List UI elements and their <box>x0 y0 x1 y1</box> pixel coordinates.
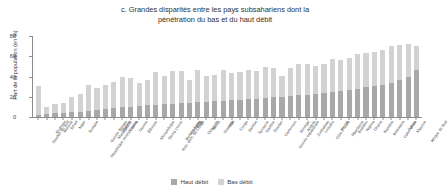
bar-segment-haut-debit <box>305 95 310 117</box>
bar-column <box>93 36 101 117</box>
bar-segment-bas-debit <box>229 73 234 99</box>
x-axis-labels: Soudan du SudÉrythréeBurundiTchadNigerSo… <box>32 120 422 176</box>
stacked-bar <box>120 77 125 118</box>
bar-segment-haut-debit <box>288 96 293 117</box>
bar-segment-bas-debit <box>94 88 99 110</box>
x-axis-label: Somalie <box>88 120 100 134</box>
bar-segment-haut-debit <box>271 97 276 117</box>
bar-column <box>395 36 403 117</box>
bar-segment-bas-debit <box>237 72 242 99</box>
stacked-bar <box>372 52 377 117</box>
bar-segment-haut-debit <box>145 105 150 117</box>
bar-column <box>101 36 109 117</box>
bar-segment-bas-debit <box>61 103 66 113</box>
y-tick-80 <box>29 36 32 37</box>
stacked-bar <box>94 88 99 117</box>
bar-segment-haut-debit <box>94 110 99 117</box>
stacked-bar <box>414 46 419 117</box>
bar-column <box>379 36 387 117</box>
bar-column <box>353 36 361 117</box>
stacked-bar <box>389 46 394 117</box>
stacked-bar <box>279 76 284 118</box>
bar-column <box>76 36 84 117</box>
stacked-bar <box>204 76 209 118</box>
y-tick-label-40: 40 <box>2 74 16 80</box>
bar-segment-haut-debit <box>372 86 377 117</box>
stacked-bar <box>347 58 352 117</box>
bar-column <box>295 36 303 117</box>
bar-segment-haut-debit <box>296 95 301 117</box>
bar-segment-bas-debit <box>69 97 74 112</box>
bar-segment-haut-debit <box>330 92 335 117</box>
bar-segment-haut-debit <box>195 102 200 117</box>
bar-segment-bas-debit <box>254 71 259 98</box>
bar-segment-bas-debit <box>330 59 335 91</box>
bar-segment-haut-debit <box>347 90 352 117</box>
stacked-bar <box>246 70 251 117</box>
bar-segment-haut-debit <box>338 91 343 117</box>
y-tick-60 <box>29 56 32 57</box>
bar-segment-haut-debit <box>229 100 234 117</box>
bar-column <box>286 36 294 117</box>
bar-segment-bas-debit <box>380 50 385 84</box>
bar-column <box>261 36 269 117</box>
legend-item: Haut débit <box>171 178 208 185</box>
bar-segment-haut-debit <box>153 105 158 117</box>
stacked-bar <box>153 72 158 117</box>
bar-column <box>135 36 143 117</box>
bar-segment-bas-debit <box>397 45 402 79</box>
bar-segment-bas-debit <box>271 68 276 96</box>
bar-segment-haut-debit <box>212 101 217 117</box>
bar-column <box>404 36 412 117</box>
bar-segment-bas-debit <box>162 76 167 104</box>
stacked-bar <box>229 73 234 117</box>
chart-title-line-2: pénétration du bas et du haut débit <box>60 15 370 25</box>
bar-column <box>211 36 219 117</box>
stacked-bar <box>195 70 200 117</box>
x-axis-label: Cameroun <box>284 120 298 137</box>
bar-segment-bas-debit <box>52 104 57 113</box>
y-tick-40 <box>29 77 32 78</box>
bar-segment-bas-debit <box>305 64 310 94</box>
bar-segment-haut-debit <box>204 102 209 117</box>
bar-segment-haut-debit <box>120 107 125 117</box>
bar-segment-bas-debit <box>195 70 200 101</box>
bar-column <box>328 36 336 117</box>
bar-column <box>177 36 185 117</box>
bar-segment-haut-debit <box>254 99 259 117</box>
stacked-bar <box>363 53 368 117</box>
bar-segment-bas-debit <box>347 58 352 89</box>
bar-segment-bas-debit <box>153 72 158 104</box>
bar-column <box>126 36 134 117</box>
bar-segment-haut-debit <box>363 87 368 117</box>
x-axis-label: Afrique du Sud <box>430 120 448 144</box>
bar-segment-haut-debit <box>111 108 116 117</box>
bar-segment-bas-debit <box>78 94 83 112</box>
stacked-bar <box>406 44 411 117</box>
bar-column <box>253 36 261 117</box>
bar-column <box>219 36 227 117</box>
stacked-bar <box>380 50 385 117</box>
bar-segment-bas-debit <box>187 80 192 103</box>
bar-segment-haut-debit <box>380 85 385 117</box>
legend-swatch-bas <box>218 179 224 185</box>
stacked-bar <box>330 59 335 117</box>
y-tick-label-80: 80 <box>2 33 16 39</box>
bar-column <box>160 36 168 117</box>
x-axis-label: Niger <box>78 120 87 130</box>
bar-segment-haut-debit <box>221 101 226 117</box>
bar-segment-haut-debit <box>414 70 419 117</box>
bar-column <box>118 36 126 117</box>
bar-segment-haut-debit <box>313 94 318 117</box>
bar-column <box>362 36 370 117</box>
bar-segment-bas-debit <box>288 68 293 95</box>
stacked-bar <box>221 70 226 117</box>
bar-column <box>311 36 319 117</box>
stacked-bar <box>338 60 343 117</box>
bar-column <box>269 36 277 117</box>
bar-segment-haut-debit <box>397 80 402 117</box>
bar-segment-bas-debit <box>355 54 360 88</box>
bar-column <box>169 36 177 117</box>
bar-segment-bas-debit <box>204 76 209 102</box>
stacked-bar <box>61 103 66 117</box>
